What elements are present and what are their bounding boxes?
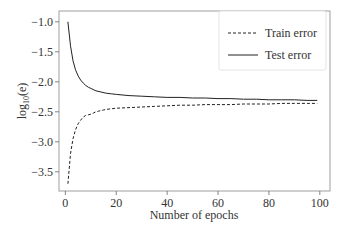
y-tick-label: −2.5 (31, 105, 53, 119)
y-axis-label-base: log (15, 104, 29, 119)
y-axis-label-subscript: 10 (22, 96, 31, 104)
y-axis-label-arg: (e) (15, 83, 29, 96)
x-axis-label: Number of epochs (150, 208, 239, 222)
y-tick-label: −1.5 (31, 45, 53, 59)
y-axis-ticks: −1.0−1.5−2.0−2.5−3.0−3.5 (31, 15, 59, 179)
series-train-error (68, 103, 317, 183)
x-tick-label: 100 (311, 196, 329, 210)
x-tick-label: 20 (110, 196, 122, 210)
y-tick-label: −3.5 (31, 165, 53, 179)
legend-train-label: Train error (265, 26, 317, 40)
x-tick-label: 80 (263, 196, 275, 210)
line-chart: 020406080100 −1.0−1.5−2.0−2.5−3.0−3.5 Nu… (0, 0, 342, 235)
x-tick-label: 0 (62, 196, 68, 210)
y-tick-label: −3.0 (31, 135, 53, 149)
y-axis-label: log10(e) (15, 83, 31, 120)
y-tick-label: −1.0 (31, 15, 53, 29)
legend: Train error Test error (219, 11, 326, 70)
legend-test-label: Test error (265, 48, 311, 62)
y-tick-label: −2.0 (31, 75, 53, 89)
